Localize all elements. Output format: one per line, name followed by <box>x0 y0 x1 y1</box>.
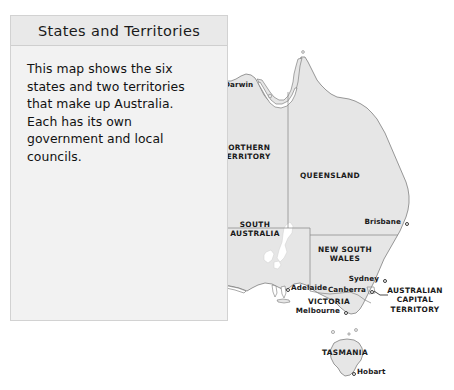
info-panel-title: States and Territories <box>38 23 200 39</box>
city-marker-brisbane <box>405 222 409 226</box>
kangaroo-island <box>277 299 290 303</box>
info-panel-titlebar: States and Territories <box>11 16 227 46</box>
bass-strait-island-c <box>348 333 350 335</box>
info-panel-text: This map shows the six states and two te… <box>27 60 187 166</box>
bass-strait-island-a <box>331 330 334 333</box>
torres-island <box>302 51 305 54</box>
info-panel-body: This map shows the six states and two te… <box>11 46 227 166</box>
spencer-gulf <box>272 285 277 297</box>
groote-island <box>268 94 272 98</box>
map-figure: WESTERN AUSTRALIA NORTHERN TERRITORY QUE… <box>0 0 454 390</box>
city-marker-melbourne <box>344 311 348 315</box>
info-panel: States and Territories This map shows th… <box>10 15 228 321</box>
bass-strait-island-b <box>355 329 358 332</box>
act-leader-line <box>374 291 388 295</box>
city-marker-hobart <box>352 372 356 376</box>
city-marker-sydney <box>383 279 387 283</box>
st-vincent-gulf <box>281 286 286 298</box>
city-marker-adelaide <box>286 288 290 292</box>
tasmania-landmass <box>330 339 363 376</box>
city-marker-canberra <box>370 290 374 294</box>
